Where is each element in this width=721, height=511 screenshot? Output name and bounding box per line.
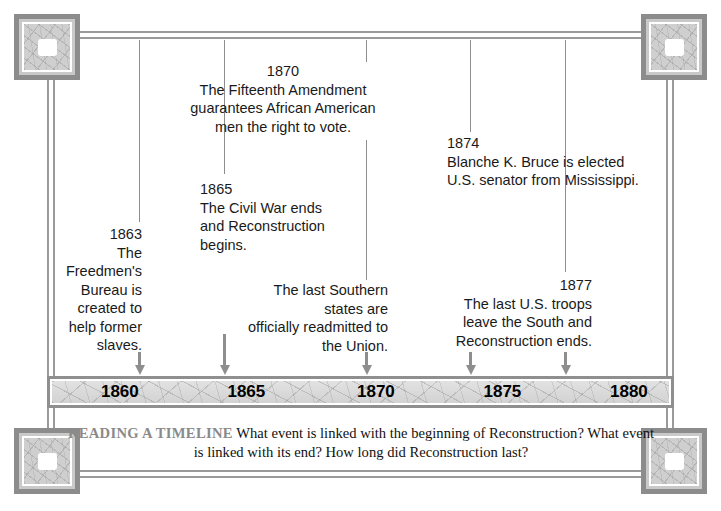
year-label-1880: 1880	[608, 381, 650, 403]
arrow-1874	[469, 352, 472, 366]
frame-rail-bottom	[47, 470, 674, 478]
event-text-southern-states-readmitted: The last Southern states are officially …	[218, 281, 388, 355]
arrow-1863	[138, 352, 141, 366]
timeline-bar: 1860 1865 1870 1875 1880	[47, 376, 674, 408]
frame-rail-top	[47, 31, 674, 39]
year-label-text: 1880	[608, 382, 650, 402]
timeline-figure: 1863 The Freedmen's Bureau is created to…	[0, 0, 721, 511]
year-label-1875: 1875	[481, 381, 523, 403]
event-text-troops-leave-south: 1877 The last U.S. troops leave the Sout…	[420, 276, 592, 350]
frame-rail-right	[666, 31, 674, 478]
arrow-readmission	[365, 352, 368, 366]
corner-pip	[665, 39, 684, 56]
leader-line-readmission	[366, 140, 367, 280]
caption-question: What event is linked with the beginning …	[194, 425, 654, 460]
caption: READING A TIMELINE What event is linked …	[62, 424, 660, 462]
frame-rail-left	[47, 31, 55, 478]
corner-ornament-top-left	[14, 14, 80, 80]
leader-line-1874	[470, 40, 471, 132]
leader-line-1863	[139, 40, 140, 222]
year-label-text: 1875	[481, 382, 523, 402]
corner-pip	[38, 39, 57, 56]
arrow-1865	[223, 334, 226, 366]
corner-texture	[649, 22, 699, 72]
year-label-1865: 1865	[225, 381, 267, 403]
event-text-blanche-bruce-senator: 1874 Blanche K. Bruce is elected U.S. se…	[447, 134, 677, 190]
year-label-text: 1860	[99, 382, 141, 402]
caption-label: READING A TIMELINE	[68, 425, 233, 441]
leader-line-1870	[366, 40, 367, 62]
corner-pip	[38, 453, 57, 470]
event-text-freedmens-bureau: 1863 The Freedmen's Bureau is created to…	[62, 225, 142, 355]
corner-ornament-top-right	[641, 14, 707, 80]
event-text-fifteenth-amendment: 1870 The Fifteenth Amendment guarantees …	[168, 62, 398, 136]
year-label-text: 1870	[355, 382, 397, 402]
year-label-1860: 1860	[99, 381, 141, 403]
corner-texture	[22, 22, 72, 72]
year-label-1870: 1870	[355, 381, 397, 403]
event-text-civil-war-ends: 1865 The Civil War ends and Reconstructi…	[200, 180, 350, 254]
timeline-track: 1860 1865 1870 1875 1880	[52, 381, 669, 403]
corner-pip	[665, 453, 684, 470]
year-label-text: 1865	[225, 382, 267, 402]
arrow-1877	[564, 352, 567, 366]
